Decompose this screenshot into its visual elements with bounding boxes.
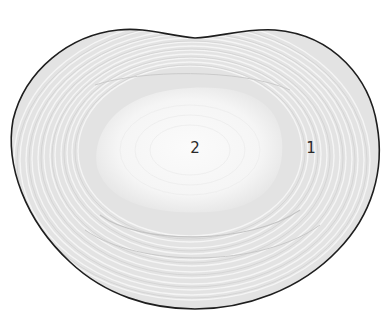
- label-annulus-fibrosus: 1: [306, 141, 316, 156]
- label-nucleus-pulposus: 2: [190, 141, 200, 156]
- disc-diagram: [0, 0, 387, 323]
